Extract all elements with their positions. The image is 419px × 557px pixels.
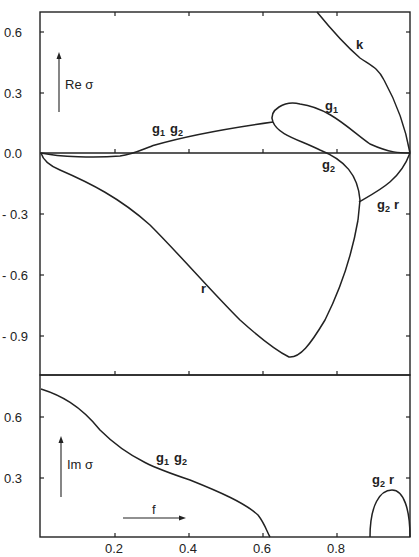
- ytick-top-0.3: 0.3: [4, 86, 22, 101]
- curve-r-re: [41, 153, 358, 357]
- re-sigma-label: Re σ: [65, 77, 93, 92]
- bottom-ticks: [40, 417, 410, 537]
- bottom-panel-frame: [40, 375, 410, 537]
- ytick-top-0.6: 0.6: [4, 25, 22, 40]
- curve-g2-re: [273, 122, 360, 220]
- curve-k-re: [317, 12, 410, 153]
- ytick-bottom-0.3: 0.3: [4, 471, 22, 486]
- im-sigma-arrow-icon: [59, 436, 64, 497]
- top-panel-frame: [40, 12, 410, 375]
- label-g2r-top: g2r: [377, 197, 399, 214]
- ytick-top-neg0.6: - 0.6: [2, 268, 28, 283]
- ytick-top-neg0.3: - 0.3: [2, 207, 28, 222]
- xtick-0.8: 0.8: [327, 541, 345, 556]
- xtick-0.4: 0.4: [179, 541, 197, 556]
- label-g2r-bottom: g2r: [372, 472, 394, 489]
- chart-figure: 0.6 0.3 0.0 - 0.3 - 0.6 - 0.9 0.6 0.3 0.…: [0, 0, 419, 557]
- label-g2-top: g2: [322, 157, 335, 174]
- curve-g2r-re: [359, 153, 410, 202]
- f-label: f: [152, 502, 156, 517]
- curve-g2r-im: [370, 490, 410, 537]
- label-g1-top: g1: [325, 98, 338, 115]
- label-g1g2-bottom: g1g2: [156, 450, 187, 467]
- xtick-0.2: 0.2: [105, 541, 123, 556]
- label-r-top: r: [201, 281, 206, 296]
- ytick-top-0.0: 0.0: [4, 146, 22, 161]
- re-sigma-arrow-icon: [57, 52, 62, 112]
- label-k-top: k: [356, 37, 364, 52]
- im-sigma-label: Im σ: [67, 457, 93, 472]
- xtick-0.6: 0.6: [253, 541, 271, 556]
- label-g1g2-top: g1g2: [152, 121, 183, 138]
- top-y-ticks: [40, 12, 410, 375]
- ytick-top-neg0.9: - 0.9: [2, 329, 28, 344]
- ytick-bottom-0.6: 0.6: [4, 410, 22, 425]
- curve-g1-re: [272, 103, 410, 153]
